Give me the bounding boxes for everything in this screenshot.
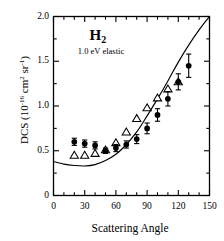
data-marker-triangle <box>81 151 89 158</box>
y-tick-label-0: 0 <box>16 191 49 201</box>
data-marker-circle <box>186 63 192 69</box>
data-marker-circle <box>103 148 109 154</box>
data-marker-triangle <box>122 128 130 135</box>
y-tick-label-1.5: 1.5 <box>16 56 49 66</box>
data-marker-circle <box>92 143 98 149</box>
y-axis-label-mid: cm <box>18 80 30 96</box>
x-tick-label-120: 120 <box>164 202 192 212</box>
y-tick-label-0.5: 0.5 <box>16 146 49 156</box>
y-axis-label-main: DCS (10 <box>18 105 30 144</box>
x-tick-label-90: 90 <box>133 202 161 212</box>
y-tick-label-1.0: 1.0 <box>16 101 49 111</box>
x-tick-label-30: 30 <box>71 202 99 212</box>
y-axis-label: DCS (10-16 cm2 sr-1) <box>18 20 30 180</box>
data-marker-circle <box>113 145 119 151</box>
molecule-symbol: H <box>89 27 101 43</box>
data-marker-triangle <box>133 115 141 122</box>
data-marker-triangle <box>143 104 151 111</box>
data-marker-circle <box>71 139 77 145</box>
y-axis-label-sr: sr <box>18 65 30 76</box>
data-marker-circle <box>134 136 140 142</box>
data-marker-triangle <box>70 151 78 158</box>
x-tick-label-150: 150 <box>196 202 224 212</box>
y-axis-label-sup2: 2 <box>18 76 26 80</box>
data-marker-triangle <box>91 150 99 157</box>
data-marker-circle <box>165 96 171 102</box>
x-tick-label-60: 60 <box>102 202 130 212</box>
x-axis-label: Scattering Angle <box>40 222 220 234</box>
annotation-molecule: H2 <box>68 28 128 45</box>
annotation-condition: 1.0 eV elastic <box>58 47 144 56</box>
x-tick-label-0: 0 <box>40 202 68 212</box>
y-tick-label-2.0: 2.0 <box>16 12 49 22</box>
data-marker-circle <box>123 142 129 148</box>
molecule-subscript: 2 <box>101 34 106 45</box>
figure-panel: H2 1.0 eV elastic DCS (10-16 cm2 sr-1) S… <box>0 0 224 241</box>
data-marker-circle <box>82 141 88 147</box>
data-marker-circle <box>155 112 161 118</box>
data-marker-circle <box>175 79 181 85</box>
data-marker-circle <box>144 126 150 132</box>
